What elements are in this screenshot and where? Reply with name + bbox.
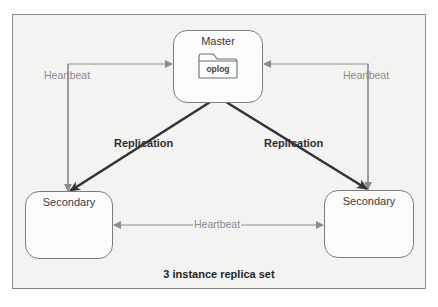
heartbeat-left-connector [68,64,172,191]
master-label: Master [174,35,262,47]
secondary-left-label: Secondary [26,196,112,208]
replication-left-label: Replication [114,137,173,149]
secondary-left-node: Secondary [25,191,113,259]
oplog-label: oplog [197,64,239,74]
heartbeat-bottom-label: Heartbeat [193,218,241,230]
secondary-right-label: Secondary [325,195,413,207]
heartbeat-right-connector [264,64,368,190]
heartbeat-right-label: Heartbeat [343,69,389,81]
folder-icon: oplog [197,53,239,79]
master-node: Master oplog [173,30,263,103]
secondary-right-node: Secondary [324,190,414,258]
heartbeat-left-label: Heartbeat [44,69,90,81]
diagram-caption: 3 instance replica set [0,268,438,280]
replication-right-label: Replication [264,137,323,149]
